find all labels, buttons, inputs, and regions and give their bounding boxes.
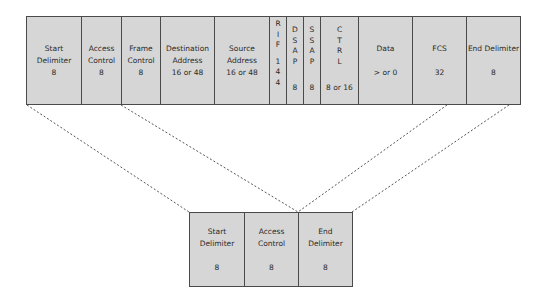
label: Access [89, 43, 115, 55]
bits: 8 [52, 67, 57, 79]
connector-fcs [298, 105, 447, 212]
label: Delimiter [308, 238, 343, 250]
field-data: Data > or 0 [359, 17, 413, 104]
label: C [337, 25, 342, 36]
bits: 32 [435, 67, 445, 79]
field-start-delimiter: Start Delimiter 8 [190, 213, 245, 286]
label: Control [258, 238, 285, 250]
field-fcs: FCS 32 [413, 17, 467, 104]
label: End Delimiter [468, 43, 519, 55]
label: T [337, 36, 342, 47]
connector-start [27, 105, 189, 212]
field-ssap: S S A P 8 [304, 17, 321, 104]
label: A [309, 46, 314, 57]
bits: 8 [215, 262, 220, 274]
bits: 4 [276, 67, 281, 78]
field-source-address: Source Address 16 or 48 [215, 17, 270, 104]
field-rif: R I F 1 4 4 [270, 17, 287, 104]
connector-end [352, 105, 509, 212]
token-ring-data-frame: Start Delimiter 8 Access Control 8 Frame… [26, 16, 521, 105]
field-dsap: D S A P 8 [287, 17, 304, 104]
bits: 1 [276, 57, 281, 68]
field-end-delimiter: End Delimiter 8 [467, 17, 520, 104]
label: A [292, 46, 297, 57]
label: S [310, 36, 315, 47]
bits: 8 [99, 67, 104, 79]
bits: 8 or 16 [326, 83, 353, 94]
bits: 16 or 48 [172, 67, 204, 79]
label: L [337, 57, 341, 68]
label: R [275, 19, 280, 30]
label: Start [45, 43, 63, 55]
bits: 8 [491, 67, 496, 79]
field-access-control: Access Control 8 [82, 17, 122, 104]
label: Source [229, 43, 255, 55]
label: D [292, 25, 298, 36]
bits: 8 [139, 67, 144, 79]
label: P [293, 57, 298, 68]
label: Address [227, 55, 257, 67]
field-access-control: Access Control 8 [245, 213, 299, 286]
field-start-delimiter: Start Delimiter 8 [27, 17, 82, 104]
field-end-delimiter: End Delimiter 8 [299, 213, 352, 286]
label: Control [88, 55, 115, 67]
bits: 8 [269, 262, 274, 274]
label: Frame [129, 43, 152, 55]
label: Address [173, 55, 203, 67]
field-frame-control: Frame Control 8 [122, 17, 161, 104]
label: Delimiter [37, 55, 72, 67]
label: F [276, 40, 280, 51]
label: Destination [166, 43, 209, 55]
label: P [310, 57, 315, 68]
bits: 16 or 48 [226, 67, 258, 79]
label: Data [377, 43, 395, 55]
field-ctrl: C T R L 8 or 16 [321, 17, 359, 104]
label: Start [208, 226, 226, 238]
bits: 4 [276, 78, 281, 89]
bits: 8 [310, 83, 315, 94]
connector-access-end [121, 105, 298, 212]
label: Access [259, 226, 285, 238]
label: I [277, 30, 279, 41]
token-frame: Start Delimiter 8 Access Control 8 End D… [189, 212, 353, 287]
label: Delimiter [200, 238, 235, 250]
label: Control [127, 55, 154, 67]
field-destination-address: Destination Address 16 or 48 [161, 17, 215, 104]
bits: 8 [323, 262, 328, 274]
bits: > or 0 [374, 67, 398, 79]
label: FCS [432, 43, 446, 55]
label: R [337, 46, 342, 57]
label: End [318, 226, 332, 238]
bits: 8 [293, 83, 298, 94]
label: S [293, 36, 298, 47]
label: S [310, 25, 315, 36]
